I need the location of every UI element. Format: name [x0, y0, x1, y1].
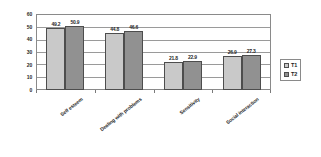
- bar-group-social-interaction: 26.9 27.3: [212, 14, 271, 90]
- bar-t2[interactable]: 27.3: [242, 55, 261, 90]
- y-tick-label: 20: [27, 62, 32, 68]
- bar-group-dealing-with-problems: 44.8 46.6: [95, 14, 154, 90]
- bar-value-label: 21.8: [169, 55, 178, 61]
- x-tick-mark: [212, 90, 213, 93]
- bar-value-label: 50.9: [70, 19, 79, 25]
- y-tick-label: 60: [27, 11, 32, 17]
- y-tick-label: 10: [27, 74, 32, 80]
- bar-value-label: 26.9: [228, 49, 237, 55]
- y-tick-label: 30: [27, 49, 32, 55]
- y-axis: 60 50 40 30 20 10 0: [14, 14, 34, 90]
- x-axis: Self esteem Dealing with problems Sensit…: [36, 90, 271, 152]
- legend-swatch-icon: [284, 63, 289, 68]
- bar-chart: 60 50 40 30 20 10 0 49.2 50.9 44.8: [0, 0, 321, 157]
- bar-t1[interactable]: 44.8: [105, 33, 124, 90]
- x-category-label: Social interaction: [225, 96, 260, 125]
- bar-value-label: 27.3: [247, 48, 256, 54]
- bar-group-self-esteem: 49.2 50.9: [36, 14, 95, 90]
- legend-label: T2: [291, 72, 297, 78]
- x-category-label: Self esteem: [59, 96, 84, 117]
- y-tick-label: 50: [27, 24, 32, 30]
- x-tick-mark: [154, 90, 155, 93]
- legend-item-t1[interactable]: T1: [284, 63, 297, 69]
- bar-t1[interactable]: 26.9: [223, 56, 242, 90]
- x-tick-mark: [36, 90, 37, 93]
- bar-value-label: 22.9: [188, 54, 197, 60]
- legend: T1 T2: [280, 59, 301, 81]
- legend-item-t2[interactable]: T2: [284, 72, 297, 78]
- bar-t2[interactable]: 46.6: [124, 31, 143, 90]
- bar-t1[interactable]: 21.8: [164, 62, 183, 90]
- x-tick-mark: [95, 90, 96, 93]
- bar-t2[interactable]: 22.9: [183, 61, 202, 90]
- bar-value-label: 44.8: [110, 26, 119, 32]
- bar-group-sensitivity: 21.8 22.9: [154, 14, 213, 90]
- legend-swatch-icon: [284, 72, 289, 77]
- legend-label: T1: [291, 63, 297, 69]
- x-category-label: Dealing with problems: [99, 96, 143, 132]
- bar-t2[interactable]: 50.9: [65, 26, 84, 90]
- bars-layer: 49.2 50.9 44.8 46.6 21.8 22.9 26.9: [36, 14, 271, 90]
- y-tick-label: 40: [27, 36, 32, 42]
- y-tick-label: 0: [29, 87, 32, 93]
- x-tick-mark: [270, 90, 271, 93]
- bar-value-label: 49.2: [51, 21, 60, 27]
- bar-t1[interactable]: 49.2: [46, 28, 65, 90]
- bar-value-label: 46.6: [129, 24, 138, 30]
- x-category-label: Sensitivity: [178, 96, 201, 115]
